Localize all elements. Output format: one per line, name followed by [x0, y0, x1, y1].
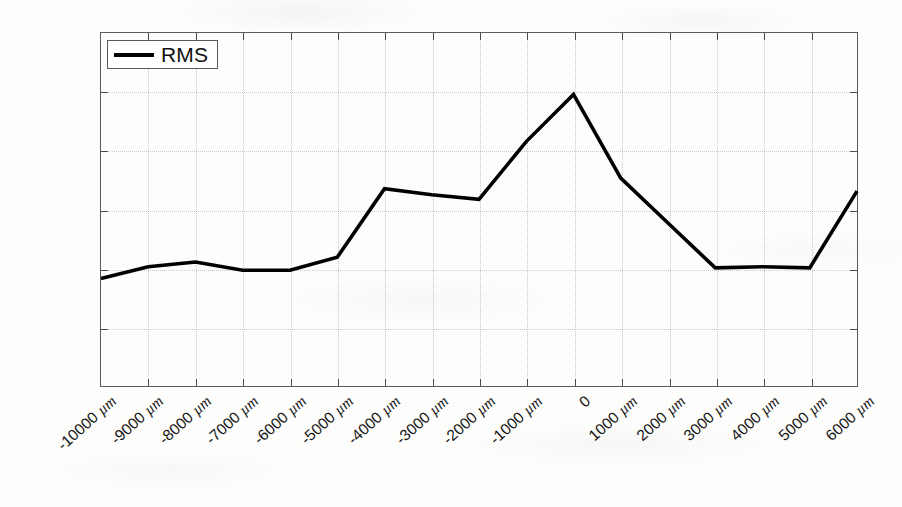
rms-line-chart: RMS 00.511.522.53 -10000 µm-9000 µm-8000… — [0, 0, 902, 507]
chart-legend: RMS — [107, 40, 218, 69]
legend-label-rms: RMS — [161, 44, 208, 65]
legend-line-swatch-rms — [114, 53, 154, 57]
rms-series-line — [101, 33, 857, 387]
series-line-rms — [101, 94, 857, 278]
plot-area: RMS — [100, 32, 858, 387]
